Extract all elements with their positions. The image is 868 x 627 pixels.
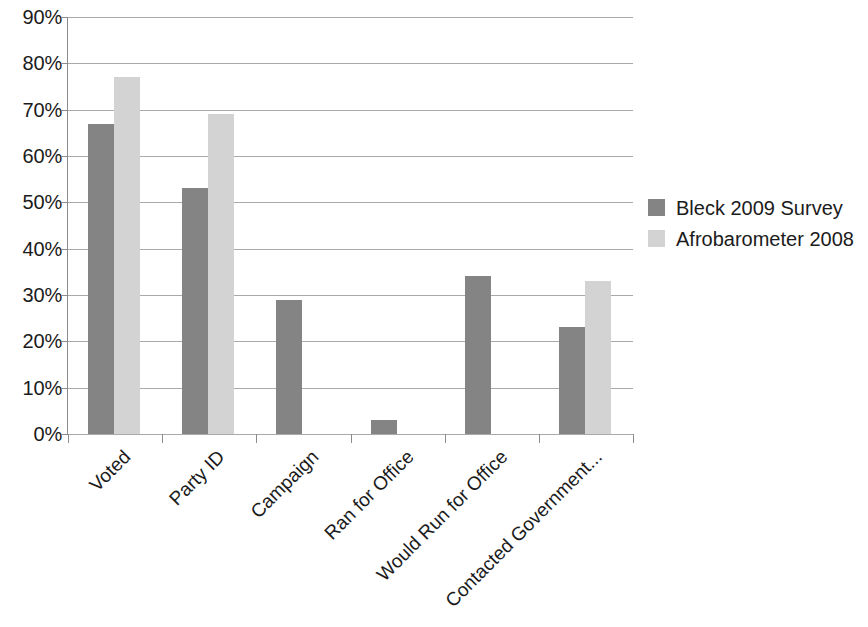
- gridline: [68, 17, 633, 18]
- legend-item[interactable]: Afrobarometer 2008: [648, 223, 868, 254]
- y-axis-tick-label: 60%: [0, 146, 62, 166]
- bar-1-5: [585, 281, 611, 434]
- y-axis-tick: [61, 110, 68, 111]
- legend-label: Bleck 2009 Survey: [676, 197, 843, 219]
- gridline: [68, 202, 633, 203]
- bar-0-2: [276, 300, 302, 434]
- x-axis-category-label: Contacted Government...: [441, 446, 606, 611]
- y-axis-tick-label: 70%: [0, 100, 62, 120]
- y-axis-tick-label: 10%: [0, 378, 62, 398]
- y-axis-tick: [61, 295, 68, 296]
- y-axis-tick: [61, 434, 68, 435]
- y-axis-tick-label: 20%: [0, 331, 62, 351]
- y-axis-tick: [61, 249, 68, 250]
- bar-0-5: [559, 327, 585, 434]
- bar-0-1: [182, 188, 208, 434]
- gridline: [68, 110, 633, 111]
- y-axis-tick: [61, 156, 68, 157]
- y-axis-tick: [61, 202, 68, 203]
- bar-chart: 0%10%20%30%40%50%60%70%80%90% VotedParty…: [0, 0, 868, 627]
- y-axis-tick: [61, 388, 68, 389]
- x-axis-category-label: Voted: [86, 446, 135, 495]
- chart-legend: Bleck 2009 SurveyAfrobarometer 2008: [648, 192, 868, 254]
- bar-0-4: [465, 276, 491, 434]
- bar-1-0: [114, 77, 140, 434]
- gridline: [68, 156, 633, 157]
- x-axis-category-label: Campaign: [247, 446, 323, 522]
- gridline: [68, 341, 633, 342]
- x-axis-category-labels: VotedParty IDCampaignRan for OfficeWould…: [68, 434, 668, 627]
- gridline: [68, 63, 633, 64]
- y-axis-tick-label: 50%: [0, 192, 62, 212]
- y-axis-tick-label: 30%: [0, 285, 62, 305]
- bar-0-0: [88, 124, 114, 434]
- legend-label: Afrobarometer 2008: [676, 228, 854, 250]
- gridline: [68, 388, 633, 389]
- legend-swatch-icon: [648, 230, 665, 247]
- legend-item[interactable]: Bleck 2009 Survey: [648, 192, 868, 223]
- x-axis-category-label: Ran for Office: [320, 446, 417, 543]
- y-axis-tick-label: 80%: [0, 53, 62, 73]
- plot-area: [68, 17, 633, 434]
- gridline: [68, 249, 633, 250]
- y-axis-tick-label: 40%: [0, 239, 62, 259]
- legend-swatch-icon: [648, 199, 665, 216]
- y-axis-tick-label: 0%: [0, 424, 62, 444]
- y-axis-tick: [61, 17, 68, 18]
- y-axis-tick: [61, 63, 68, 64]
- y-axis-tick-labels: 0%10%20%30%40%50%60%70%80%90%: [0, 0, 62, 627]
- bar-1-1: [208, 114, 234, 434]
- y-axis-line: [67, 17, 68, 435]
- bar-0-3: [371, 420, 397, 434]
- y-axis-tick-label: 90%: [0, 7, 62, 27]
- x-axis-category-label: Party ID: [165, 446, 228, 509]
- gridline: [68, 295, 633, 296]
- y-axis-tick: [61, 341, 68, 342]
